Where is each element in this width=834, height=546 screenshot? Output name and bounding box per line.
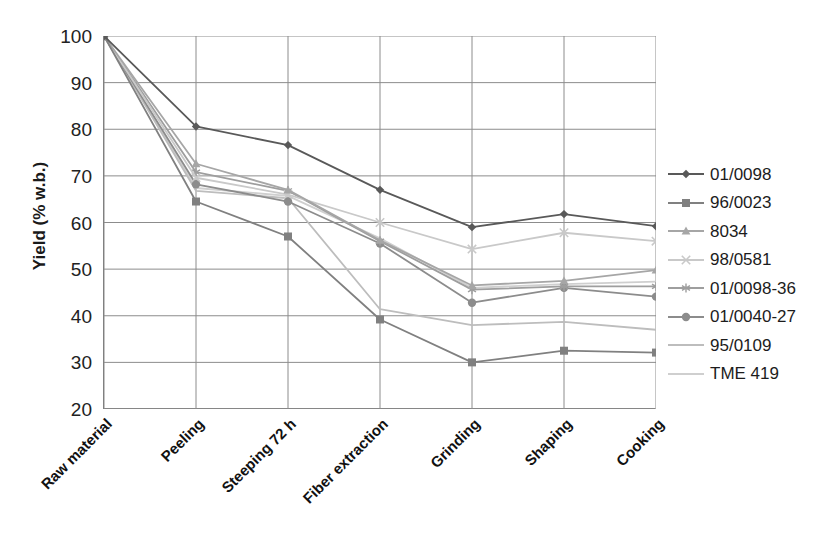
y-tick-label: 60 xyxy=(36,213,92,232)
data-point-marker xyxy=(468,298,476,306)
legend-marker-icon xyxy=(668,367,704,381)
line-chart: Yield (% w.b.) 1009080706050403020 Raw m… xyxy=(0,0,834,546)
y-tick-label: 90 xyxy=(36,73,92,92)
y-tick-label: 20 xyxy=(36,400,92,419)
data-point-marker xyxy=(560,210,568,218)
diamond-icon xyxy=(560,210,568,218)
legend-marker-icon xyxy=(668,224,704,238)
legend-marker xyxy=(668,338,704,352)
data-point-marker xyxy=(682,313,690,321)
series-canvas xyxy=(104,36,656,409)
legend-marker xyxy=(668,367,704,381)
y-tick-label: 80 xyxy=(36,120,92,139)
y-tick-label: 70 xyxy=(36,166,92,185)
legend-label: 01/0098 xyxy=(710,166,771,183)
diamond-icon xyxy=(682,170,690,178)
square-icon xyxy=(284,232,292,240)
legend: 01/009896/0023803498/058101/0098-3601/00… xyxy=(668,160,834,388)
legend-marker-icon xyxy=(668,310,704,324)
data-point-marker xyxy=(652,292,656,300)
legend-marker xyxy=(668,224,704,238)
legend-label: 8034 xyxy=(710,223,748,240)
data-point-marker xyxy=(376,315,384,323)
legend-label: 95/0109 xyxy=(710,337,771,354)
data-point-marker xyxy=(560,347,568,355)
square-icon xyxy=(192,198,200,206)
legend-marker-icon xyxy=(668,196,704,210)
x-axis-tick-labels: Raw materialPeelingSteeping 72 hFiber ex… xyxy=(103,409,655,546)
legend-label: 01/0098-36 xyxy=(710,280,796,297)
legend-marker xyxy=(668,253,704,267)
circle-icon xyxy=(652,292,656,300)
y-tick-label: 100 xyxy=(36,27,92,46)
square-icon xyxy=(468,358,476,366)
legend-marker-icon xyxy=(668,167,704,181)
diamond-icon xyxy=(284,141,292,149)
plot-area xyxy=(103,36,655,409)
legend-item[interactable]: 01/0098-36 xyxy=(668,274,834,303)
legend-marker xyxy=(668,281,704,295)
legend-item[interactable]: 96/0023 xyxy=(668,189,834,218)
legend-marker xyxy=(668,196,704,210)
circle-icon xyxy=(468,298,476,306)
circle-icon xyxy=(682,313,690,321)
diamond-icon xyxy=(376,186,384,194)
square-icon xyxy=(376,315,384,323)
legend-item[interactable]: 95/0109 xyxy=(668,331,834,360)
legend-item[interactable]: TME 419 xyxy=(668,360,834,389)
square-icon xyxy=(682,199,690,207)
data-point-marker xyxy=(468,358,476,366)
data-point-marker xyxy=(652,222,656,230)
data-point-marker xyxy=(192,198,200,206)
legend-marker-icon xyxy=(668,281,704,295)
data-point-marker xyxy=(682,170,690,178)
legend-label: 98/0581 xyxy=(710,251,771,268)
y-tick-label: 40 xyxy=(36,306,92,325)
legend-label: 01/0040-27 xyxy=(710,308,796,325)
y-tick-label: 50 xyxy=(36,260,92,279)
diamond-icon xyxy=(652,222,656,230)
legend-marker-icon xyxy=(668,338,704,352)
legend-label: 96/0023 xyxy=(710,194,771,211)
legend-item[interactable]: 8034 xyxy=(668,217,834,246)
legend-item[interactable]: 98/0581 xyxy=(668,246,834,275)
legend-marker xyxy=(668,310,704,324)
diamond-icon xyxy=(468,223,476,231)
square-icon xyxy=(560,347,568,355)
legend-marker xyxy=(668,167,704,181)
legend-label: TME 419 xyxy=(710,365,779,382)
y-tick-label: 30 xyxy=(36,353,92,372)
square-icon xyxy=(652,349,656,357)
data-point-marker xyxy=(682,199,690,207)
legend-marker-icon xyxy=(668,253,704,267)
data-point-marker xyxy=(652,349,656,357)
data-point-marker xyxy=(284,141,292,149)
legend-item[interactable]: 01/0040-27 xyxy=(668,303,834,332)
data-point-marker xyxy=(468,223,476,231)
data-point-marker xyxy=(284,232,292,240)
data-point-marker xyxy=(376,186,384,194)
legend-item[interactable]: 01/0098 xyxy=(668,160,834,189)
